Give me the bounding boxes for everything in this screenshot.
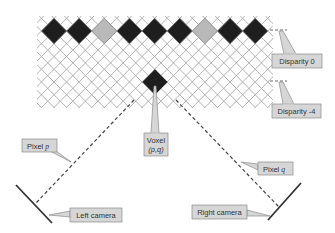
- disparity-0-label: Disparity 0: [279, 57, 314, 66]
- left-camera-callout: Left camera: [49, 208, 122, 222]
- right-camera-label: Right camera: [197, 208, 242, 217]
- pixel-p-callout: Pixel p: [22, 139, 71, 162]
- left-camera-sensor: [16, 185, 52, 223]
- disparity-neg4-callout: Disparity -4: [270, 81, 321, 118]
- voxel-coords-label: (p,q): [148, 145, 164, 154]
- voxel-callout: Voxel (p,q): [144, 86, 168, 156]
- pixel-p-label: Pixel p: [27, 142, 49, 151]
- pixel-q-label: Pixel q: [263, 165, 285, 174]
- left-camera-label: Left camera: [76, 211, 116, 220]
- disparity-neg4-label: Disparity -4: [278, 107, 316, 116]
- disparity-0-row: [41, 18, 267, 44]
- right-ray: [176, 100, 279, 207]
- disparity-0-callout: Disparity 0: [270, 30, 322, 68]
- pixel-q-callout: Pixel q: [241, 162, 293, 175]
- voxel-label: Voxel: [147, 136, 166, 145]
- stereo-voxel-diagram: Disparity 0 Disparity -4 Voxel (p,q) Pix…: [0, 0, 335, 233]
- right-camera-callout: Right camera: [192, 205, 270, 219]
